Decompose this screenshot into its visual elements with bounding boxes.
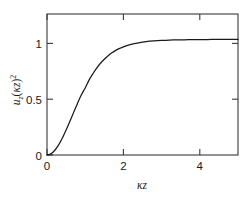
svg-text:κz: κz	[137, 179, 148, 191]
x-tick-label-0: 0	[44, 160, 50, 172]
axis-frame	[47, 14, 238, 155]
x-axis-title: κz	[137, 179, 148, 191]
y-tick-label-0: 0	[36, 150, 42, 162]
line-chart: 0 2 4 0 0.5 1 κz uz(κz)2	[0, 0, 252, 197]
x-axis-title-z: z	[142, 179, 148, 191]
y-axis-title-superscript-2: 2	[9, 75, 18, 79]
svg-text:uz(κz)2: uz(κz)2	[9, 75, 25, 106]
x-tick-labels: 0 2 4	[44, 160, 204, 172]
figure-container: 0 2 4 0 0.5 1 κz uz(κz)2	[0, 0, 252, 197]
x-tick-label-4: 4	[197, 160, 204, 172]
y-tick-label-1: 1	[36, 38, 42, 50]
x-axis-ticks-top	[47, 14, 200, 20]
y-axis-ticks-left	[47, 43, 53, 155]
y-tick-label-05: 0.5	[26, 94, 42, 106]
x-tick-label-2: 2	[120, 160, 126, 172]
data-curve-uz-squared	[47, 39, 238, 155]
y-tick-labels: 0 0.5 1	[26, 38, 42, 162]
x-axis-ticks-bottom	[47, 149, 200, 155]
y-axis-title: uz(κz)2	[9, 75, 25, 106]
y-axis-ticks-right	[232, 43, 238, 99]
